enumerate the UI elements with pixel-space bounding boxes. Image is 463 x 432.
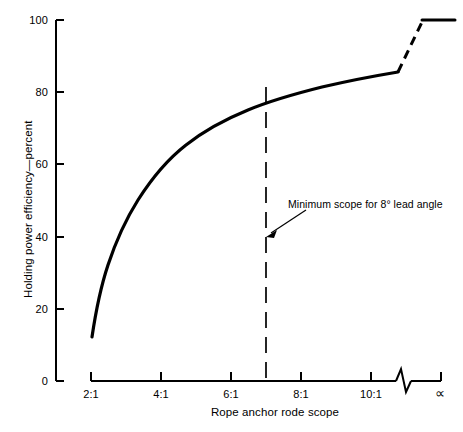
x-tick-label-4to1: 4:1 [153, 388, 169, 400]
y-tick-label-100: 100 [10, 14, 48, 26]
x-axis-title: Rope anchor rode scope [211, 406, 339, 418]
y-tick-label-80: 80 [10, 86, 48, 98]
x-tick-label-6to1: 6:1 [223, 388, 239, 400]
x-axis-break-zigzag [396, 369, 411, 392]
data-curve-dashed-transition [398, 20, 423, 72]
annotation-arrowhead [266, 230, 277, 238]
x-tick-label-8to1: 8:1 [293, 388, 309, 400]
annotation-leader-line [271, 210, 306, 233]
chart-figure: 100 80 60 40 20 0 2:1 4:1 6:1 8:1 10:1 ∝… [0, 0, 463, 432]
chart-plot-area [0, 0, 463, 432]
x-tick-label-infinity: ∝ [435, 385, 445, 402]
y-tick-label-20: 20 [10, 303, 48, 315]
y-axis-title: Holding power efficiency—percent [22, 121, 34, 299]
x-tick-label-2to1: 2:1 [83, 388, 99, 400]
annotation-label: Minimum scope for 8° lead angle [288, 198, 443, 210]
y-tick-label-0: 0 [10, 375, 48, 387]
x-tick-label-10to1: 10:1 [360, 388, 382, 400]
